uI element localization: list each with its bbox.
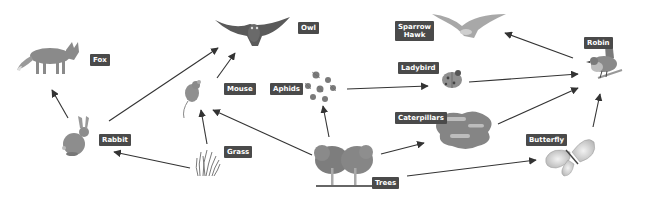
- arrow-caterpillars-to-robin: [498, 88, 578, 124]
- owl-illustration: [215, 17, 290, 46]
- label-aphids: Aphids: [270, 83, 303, 95]
- arrow-ladybird-to-robin: [469, 74, 578, 82]
- trees-illustration: [314, 145, 373, 186]
- label-fox: Fox: [90, 54, 110, 66]
- label-sparrowhawk: Sparrow Hawk: [395, 21, 434, 41]
- mouse-illustration: [184, 80, 202, 118]
- label-mouse: Mouse: [224, 83, 256, 95]
- label-caterpillars: Caterpillars: [395, 112, 447, 124]
- arrow-mouse-to-owl: [217, 53, 235, 78]
- label-owl: Owl: [298, 22, 319, 34]
- arrow-robin-to-sparrowhawk: [505, 33, 573, 58]
- arrow-trees-to-butterfly: [407, 160, 536, 176]
- arrow-grass-to-mouse: [201, 110, 207, 144]
- sparrowhawk-illustration: [432, 14, 506, 38]
- arrow-trees-to-aphids: [323, 106, 329, 137]
- label-robin: Robin: [584, 37, 613, 49]
- food-web-diagram: [0, 0, 655, 199]
- arrow-butterfly-to-robin: [593, 94, 600, 127]
- rabbit-illustration: [62, 116, 89, 156]
- label-trees: Trees: [372, 177, 399, 189]
- fox-illustration: [17, 42, 79, 74]
- arrow-trees-to-caterpillars: [381, 143, 424, 154]
- arrow-rabbit-to-owl: [109, 48, 218, 121]
- label-ladybird: Ladybird: [398, 62, 439, 74]
- arrow-rabbit-to-fox: [52, 90, 68, 118]
- ladybird-illustration: [442, 70, 462, 88]
- label-grass: Grass: [224, 146, 252, 158]
- label-butterfly: Butterfly: [526, 134, 567, 146]
- arrow-grass-to-rabbit: [114, 152, 190, 168]
- arrow-aphids-to-ladybird: [347, 86, 428, 89]
- aphids-illustration: [305, 72, 336, 103]
- label-rabbit: Rabbit: [99, 134, 131, 146]
- grass-illustration: [196, 150, 220, 176]
